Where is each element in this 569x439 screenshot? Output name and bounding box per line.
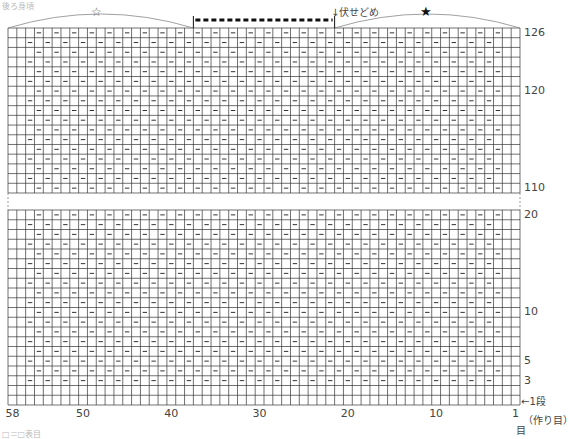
column-label: 58 [5,407,19,420]
column-label: 30 [253,407,267,420]
row-label: 10 [524,305,538,318]
column-label: 20 [341,407,355,420]
column-label: 40 [164,407,178,420]
column-label: 10 [429,407,443,420]
row-label: 3 [524,374,531,387]
bind-off-label: ↓伏せどめ [331,4,379,19]
row-label: 120 [524,84,545,97]
row-label: 110 [524,181,545,194]
row-label: 20 [524,208,538,221]
row-label: 126 [524,26,545,39]
star-outline-icon: ☆ [91,5,102,19]
legend-caption-partial: □＝□表目 [2,428,41,439]
chart-title-partial: 後ろ身頃 [2,0,34,11]
star-filled-icon: ★ [420,4,432,19]
column-label: 1 [512,407,519,420]
column-label: 50 [76,407,90,420]
row-label: 5 [524,354,531,367]
row-label: ←1段 [521,393,546,408]
cast-on-label: （作り目） [523,412,569,427]
